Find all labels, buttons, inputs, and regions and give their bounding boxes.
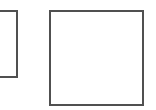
right-rectangle	[49, 10, 144, 106]
left-rectangle	[0, 10, 18, 78]
